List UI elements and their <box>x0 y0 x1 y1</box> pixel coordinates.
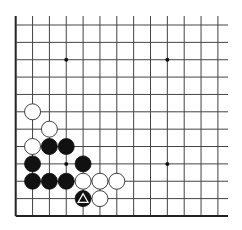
black-stone[interactable] <box>25 173 41 189</box>
white-stone[interactable] <box>92 191 108 207</box>
black-stone[interactable] <box>41 139 57 155</box>
black-stone[interactable] <box>41 173 57 189</box>
black-stone[interactable] <box>25 156 41 172</box>
white-stone[interactable] <box>41 121 57 137</box>
star-point <box>165 58 169 62</box>
black-stone[interactable] <box>75 156 91 172</box>
black-stone[interactable] <box>58 139 74 155</box>
star-point <box>165 162 169 166</box>
star-point <box>64 58 68 62</box>
black-stone[interactable] <box>58 173 74 189</box>
go-board[interactable] <box>0 0 242 230</box>
white-stone[interactable] <box>109 173 125 189</box>
white-stone[interactable] <box>75 173 91 189</box>
stones-layer <box>25 104 125 207</box>
white-stone[interactable] <box>92 173 108 189</box>
white-stone[interactable] <box>25 139 41 155</box>
white-stone[interactable] <box>25 104 41 120</box>
star-point <box>64 162 68 166</box>
